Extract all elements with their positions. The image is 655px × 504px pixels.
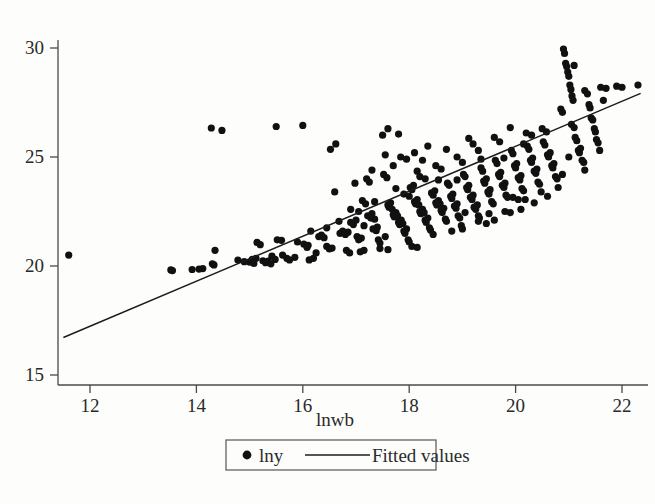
scatter-point (565, 73, 572, 80)
scatter-point (496, 138, 503, 145)
chart-canvas: 15202530 121416182022 lnwb lny Fitted va… (0, 0, 655, 504)
scatter-point (360, 222, 367, 229)
scatter-point (403, 225, 410, 232)
scatter-point (273, 123, 280, 130)
scatter-point (448, 228, 455, 235)
scatter-point (352, 217, 359, 224)
scatter-point (395, 131, 402, 138)
scatter-point (384, 125, 391, 132)
x-tick-label: 12 (81, 395, 100, 416)
scatter-point (561, 50, 568, 57)
scatter-point (515, 196, 522, 203)
scatter-point (538, 188, 545, 195)
scatter-point (486, 186, 493, 193)
scatter-point (320, 234, 327, 241)
scatter-points-group (65, 45, 641, 274)
scatter-point (384, 246, 391, 253)
scatter-point (533, 165, 540, 172)
scatter-point (513, 160, 520, 167)
scatter-point (491, 217, 498, 224)
scatter-point (465, 182, 472, 189)
scatter-point (424, 143, 431, 150)
scatter-point (346, 249, 353, 256)
legend-dot-icon (243, 451, 252, 460)
scatter-point (390, 162, 397, 169)
scatter-point (443, 218, 450, 225)
scatter-point (555, 184, 562, 191)
scatter-point (517, 172, 524, 179)
scatter-point (430, 231, 437, 238)
scatter-point (327, 146, 334, 153)
scatter-point (431, 187, 438, 194)
scatter-point (461, 209, 468, 216)
x-tick-label: 16 (293, 395, 312, 416)
scatter-point (169, 267, 176, 274)
scatter-point (419, 157, 426, 164)
scatter-point (376, 245, 383, 252)
scatter-point (382, 151, 389, 158)
scatter-point (351, 180, 358, 187)
scatter-point (446, 182, 453, 189)
scatter-point (368, 166, 375, 173)
scatter-point (602, 85, 609, 92)
scatter-point (559, 109, 566, 116)
scatter-point (371, 216, 378, 223)
scatter-point (383, 174, 390, 181)
scatter-point (305, 242, 312, 249)
scatter-point (474, 201, 481, 208)
y-tick-label: 15 (25, 364, 44, 385)
scatter-point (580, 159, 587, 166)
scatter-point (475, 147, 482, 154)
scatter-point (577, 145, 584, 152)
scatter-point (210, 261, 217, 268)
scatter-point (459, 225, 466, 232)
scatter-point (211, 247, 218, 254)
scatter-point (453, 200, 460, 207)
scatter-point (567, 86, 574, 93)
scatter-point (544, 193, 551, 200)
scatter-point (328, 245, 335, 252)
scatter-point (581, 166, 588, 173)
scatter-point (465, 135, 472, 142)
scatter-point (618, 84, 625, 91)
scatter-point (257, 241, 264, 248)
scatter-point (456, 214, 463, 221)
x-axis-title: lnwb (316, 409, 354, 430)
scatter-point (547, 149, 554, 156)
x-tick-label: 22 (613, 395, 632, 416)
scatter-point (347, 206, 354, 213)
scatter-point (374, 224, 381, 231)
scatter-point (507, 209, 514, 216)
scatter-point (483, 220, 490, 227)
scatter-point (571, 124, 578, 131)
scatter-point (403, 156, 410, 163)
scatter-point (522, 196, 529, 203)
x-tick-label: 20 (506, 395, 525, 416)
scatter-point (531, 199, 538, 206)
legend: lny Fitted values (226, 440, 470, 470)
scatter-point (541, 141, 548, 148)
scatter-point (331, 188, 338, 195)
scatter-point (438, 165, 445, 172)
scatter-point (414, 168, 421, 175)
scatter-point (596, 147, 603, 154)
scatter-point (459, 159, 466, 166)
scatter-point (589, 116, 596, 123)
scatter-point (411, 149, 418, 156)
y-tick-label: 25 (25, 146, 44, 167)
scatter-point (517, 206, 524, 213)
x-tick-label: 14 (187, 395, 207, 416)
x-tick-label: 18 (400, 395, 419, 416)
scatter-point (520, 187, 527, 194)
scatter-point (424, 214, 431, 221)
scatter-point (382, 233, 389, 240)
scatter-point (453, 153, 460, 160)
scatter-point (584, 90, 591, 97)
scatter-point (366, 178, 373, 185)
scatter-point (569, 97, 576, 104)
scatter-point (332, 140, 339, 147)
y-axis-ticks: 15202530 (25, 37, 58, 385)
scatter-point (360, 247, 367, 254)
scatter-point (490, 200, 497, 207)
scatter-point (208, 124, 215, 131)
